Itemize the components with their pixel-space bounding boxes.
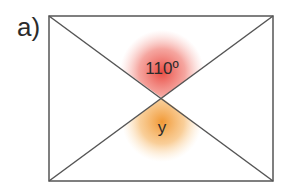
angle-bottom-label: y — [158, 118, 167, 137]
rectangle-diagonals-diagram: 110º y — [0, 0, 292, 193]
angle-top-label: 110º — [145, 59, 178, 78]
